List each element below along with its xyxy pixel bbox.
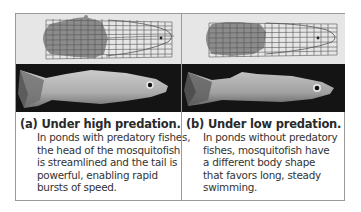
figure: (a) Under high predation. In ponds with …: [15, 13, 345, 201]
caption-line: that favors long, steady: [203, 169, 345, 182]
body-shape-grid-high-predation: [16, 14, 181, 65]
caption-title: (b) Under low predation.: [186, 118, 345, 131]
mosquitofish-high-predation-photo: [16, 64, 181, 112]
caption-body: In ponds without predatory fishes, mosqu…: [186, 131, 345, 194]
caption-line: In ponds without predatory: [203, 131, 345, 144]
caption-line: powerful, enabling rapid: [37, 169, 181, 182]
caption-line: swimming.: [203, 181, 345, 194]
caption-line: the head of the mosquitofish: [37, 144, 181, 157]
panel-high-predation: (a) Under high predation. In ponds with …: [16, 14, 181, 200]
caption-low-predation: (b) Under low predation. In ponds withou…: [182, 112, 345, 194]
body-shape-grid-low-predation: [182, 14, 345, 65]
caption-high-predation: (a) Under high predation. In ponds with …: [16, 112, 181, 194]
caption-line: bursts of speed.: [37, 181, 181, 194]
caption-title: (a) Under high predation.: [20, 118, 181, 131]
caption-line: In ponds with predatory fishes,: [37, 131, 181, 144]
panel-low-predation: (b) Under low predation. In ponds withou…: [181, 14, 345, 200]
caption-line: fishes, mosquitofish have: [203, 144, 345, 157]
mosquitofish-low-predation-photo: [182, 64, 345, 112]
caption-line: is streamlined and the tail is: [37, 156, 181, 169]
caption-body: In ponds with predatory fishes, the head…: [20, 131, 181, 194]
caption-line: a different body shape: [203, 156, 345, 169]
